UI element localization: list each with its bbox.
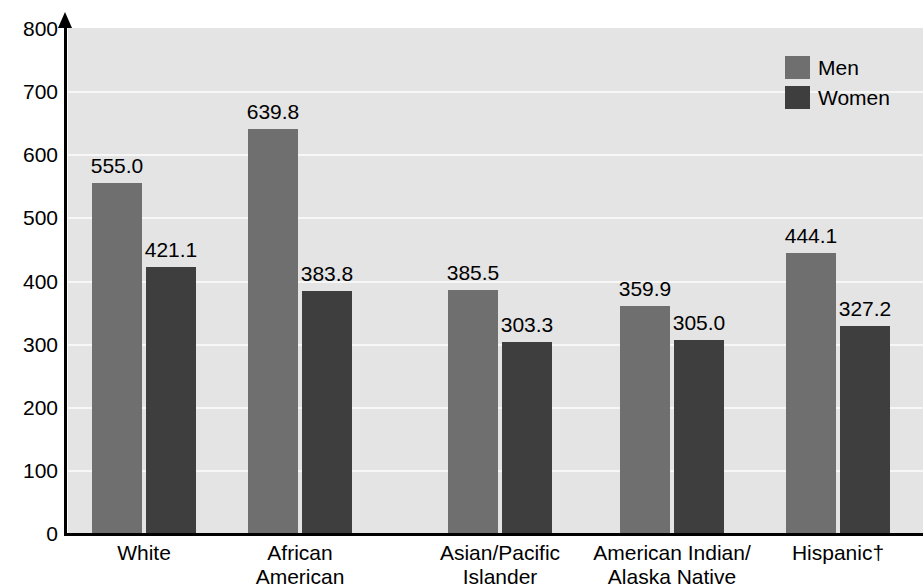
bar-chart: 8007006005004003002001000 555.0421.1639.… [0, 0, 923, 584]
bar-women [502, 342, 552, 533]
bar-value-label: 303.3 [488, 314, 566, 335]
gridline [68, 154, 923, 156]
legend-swatch [785, 86, 810, 109]
y-axis-tick-label: 100 [2, 460, 58, 481]
y-axis-tick-label: 600 [2, 144, 58, 165]
legend-item: Women [785, 82, 890, 112]
gridline [68, 217, 923, 219]
y-axis-tick-label: 200 [2, 397, 58, 418]
legend-item: Men [785, 52, 890, 82]
bar-women [674, 340, 724, 533]
y-axis-tick-label: 500 [2, 207, 58, 228]
bar-value-label: 421.1 [132, 239, 210, 260]
bar-men [248, 129, 298, 533]
y-axis-line [64, 24, 67, 536]
bar-value-label: 359.9 [606, 278, 684, 299]
bar-men [786, 253, 836, 533]
bar-women [302, 291, 352, 533]
bar-value-label: 383.8 [288, 263, 366, 284]
bar-value-label: 555.0 [78, 155, 156, 176]
bar-men [620, 306, 670, 533]
bar-value-label: 639.8 [234, 101, 312, 122]
y-axis-tick-label: 300 [2, 334, 58, 355]
legend-label: Women [818, 87, 890, 108]
y-axis-tick-label: 400 [2, 271, 58, 292]
bar-value-label: 385.5 [434, 262, 512, 283]
legend-swatch [785, 56, 810, 79]
legend: MenWomen [785, 52, 890, 112]
y-axis-tick-label: 800 [2, 18, 58, 39]
bar-women [840, 326, 890, 533]
y-axis-tick-labels: 8007006005004003002001000 [0, 0, 58, 584]
x-axis-line [64, 533, 923, 536]
bar-men [92, 183, 142, 533]
y-axis-arrow-icon [58, 12, 72, 28]
category-label: African American [190, 541, 410, 584]
bar-value-label: 305.0 [660, 312, 738, 333]
y-axis-tick-label: 700 [2, 81, 58, 102]
bar-value-label: 444.1 [772, 225, 850, 246]
bar-women [146, 267, 196, 533]
category-label: Hispanic† [728, 541, 923, 565]
legend-label: Men [818, 57, 859, 78]
bar-value-label: 327.2 [826, 298, 904, 319]
